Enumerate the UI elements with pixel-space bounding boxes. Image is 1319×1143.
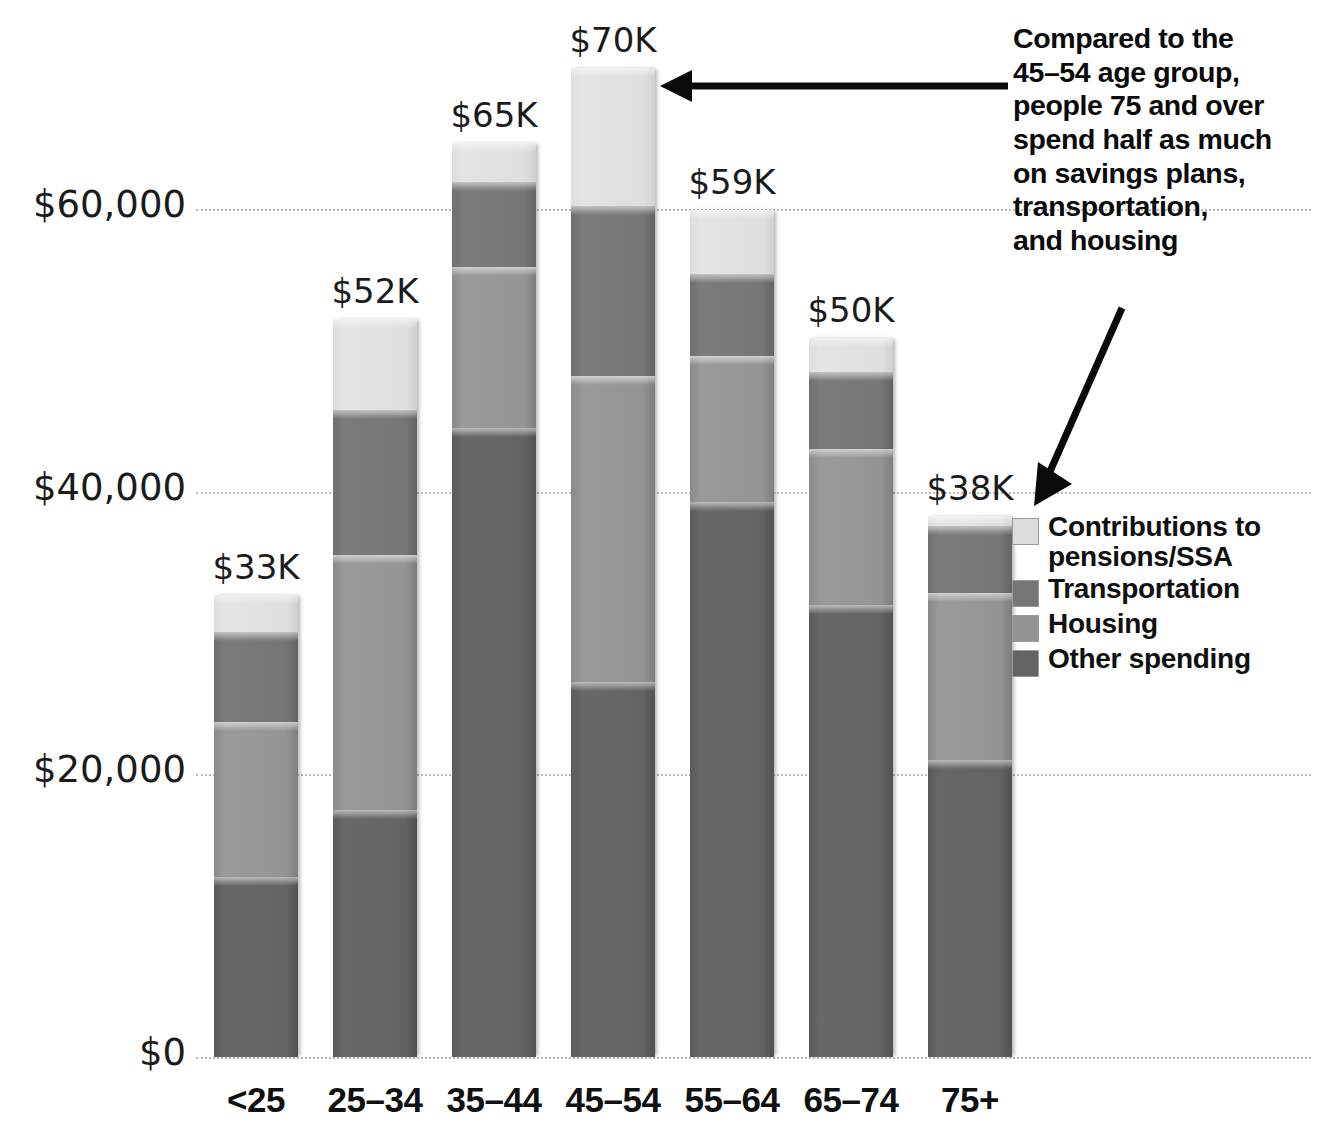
legend-label: Contributions to pensions/SSA bbox=[1048, 512, 1261, 572]
bar-35–44[interactable] bbox=[452, 143, 536, 1057]
bar-segment[interactable] bbox=[809, 605, 893, 1057]
bar-segment[interactable] bbox=[809, 338, 893, 372]
annotation-line: Compared to the bbox=[1013, 22, 1313, 56]
legend: Contributions to pensions/SSATransportat… bbox=[1012, 512, 1312, 679]
legend-swatch-icon bbox=[1012, 650, 1039, 677]
bar-75+[interactable] bbox=[928, 516, 1012, 1057]
legend-label: Other spending bbox=[1048, 644, 1251, 674]
annotation-line: 45–54 age group, bbox=[1013, 56, 1313, 90]
x-axis-label-75+: 75+ bbox=[904, 1080, 1036, 1120]
x-axis-label-25–34: 25–34 bbox=[309, 1080, 441, 1120]
annotation-callout: Compared to the45–54 age group,people 75… bbox=[1013, 22, 1313, 257]
bar-segment[interactable] bbox=[571, 682, 655, 1057]
bar-segment[interactable] bbox=[928, 516, 1012, 526]
bar-segment[interactable] bbox=[690, 356, 774, 502]
y-axis-tick-label: $0 bbox=[139, 1031, 186, 1074]
x-axis-label-<25: <25 bbox=[190, 1080, 322, 1120]
bar-65–74[interactable] bbox=[809, 338, 893, 1057]
bar-segment[interactable] bbox=[809, 449, 893, 604]
bar-total-label: $50K bbox=[787, 290, 915, 330]
bar-total-label: $59K bbox=[668, 162, 796, 202]
bar-total-label: $70K bbox=[549, 20, 677, 60]
bar-segment[interactable] bbox=[928, 526, 1012, 594]
annotation-line: spend half as much bbox=[1013, 123, 1313, 157]
bar-<25[interactable] bbox=[214, 595, 298, 1057]
legend-item[interactable]: Transportation bbox=[1012, 574, 1312, 607]
bar-segment[interactable] bbox=[214, 595, 298, 632]
bar-total-label: $65K bbox=[430, 95, 558, 135]
bar-segment[interactable] bbox=[452, 143, 536, 183]
bar-segment[interactable] bbox=[452, 182, 536, 267]
annotation-line: and housing bbox=[1013, 224, 1313, 258]
legend-label: Transportation bbox=[1048, 574, 1240, 604]
bar-segment[interactable] bbox=[333, 810, 417, 1057]
bar-segment[interactable] bbox=[690, 502, 774, 1057]
bar-total-label: $33K bbox=[192, 547, 320, 587]
y-axis-tick-label: $20,000 bbox=[33, 748, 186, 791]
bar-25–34[interactable] bbox=[333, 319, 417, 1057]
bar-segment[interactable] bbox=[571, 68, 655, 207]
legend-swatch-icon bbox=[1012, 615, 1039, 642]
bar-segment[interactable] bbox=[333, 555, 417, 809]
bar-segment[interactable] bbox=[809, 372, 893, 450]
bar-segment[interactable] bbox=[214, 632, 298, 722]
legend-swatch-icon bbox=[1012, 580, 1039, 607]
bar-segment[interactable] bbox=[690, 210, 774, 274]
bar-segment[interactable] bbox=[333, 410, 417, 556]
bar-segment[interactable] bbox=[214, 877, 298, 1056]
legend-label: Housing bbox=[1048, 609, 1158, 639]
y-axis-tick-label: $60,000 bbox=[33, 183, 186, 226]
legend-swatch-icon bbox=[1012, 518, 1039, 545]
legend-item[interactable]: Other spending bbox=[1012, 644, 1312, 677]
bar-segment[interactable] bbox=[452, 267, 536, 428]
bar-total-label: $52K bbox=[311, 271, 439, 311]
bar-55–64[interactable] bbox=[690, 210, 774, 1057]
bar-segment[interactable] bbox=[690, 274, 774, 356]
annotation-arrow-bottom bbox=[1000, 300, 1140, 510]
legend-item[interactable]: Housing bbox=[1012, 609, 1312, 642]
annotation-line: people 75 and over bbox=[1013, 89, 1313, 123]
bar-segment[interactable] bbox=[333, 319, 417, 409]
stacked-bar-chart: $0$20,000$40,000$60,000 $33K<25$52K25–34… bbox=[0, 0, 1319, 1143]
annotation-line: on savings plans, bbox=[1013, 157, 1313, 191]
bar-segment[interactable] bbox=[928, 593, 1012, 760]
y-axis-tick-label: $40,000 bbox=[33, 466, 186, 509]
bar-segment[interactable] bbox=[928, 760, 1012, 1057]
x-axis-label-65–74: 65–74 bbox=[785, 1080, 917, 1120]
bar-segment[interactable] bbox=[571, 376, 655, 683]
annotation-line: transportation, bbox=[1013, 190, 1313, 224]
bar-segment[interactable] bbox=[571, 206, 655, 376]
bar-segment[interactable] bbox=[214, 722, 298, 877]
x-axis-label-35–44: 35–44 bbox=[428, 1080, 560, 1120]
bar-segment[interactable] bbox=[452, 428, 536, 1057]
annotation-arrow-top bbox=[660, 66, 1010, 106]
legend-item[interactable]: Contributions to pensions/SSA bbox=[1012, 512, 1312, 572]
y-axis: $0$20,000$40,000$60,000 bbox=[0, 0, 186, 1143]
x-axis-label-45–54: 45–54 bbox=[547, 1080, 679, 1120]
x-axis-label-55–64: 55–64 bbox=[666, 1080, 798, 1120]
bar-45–54[interactable] bbox=[571, 68, 655, 1057]
